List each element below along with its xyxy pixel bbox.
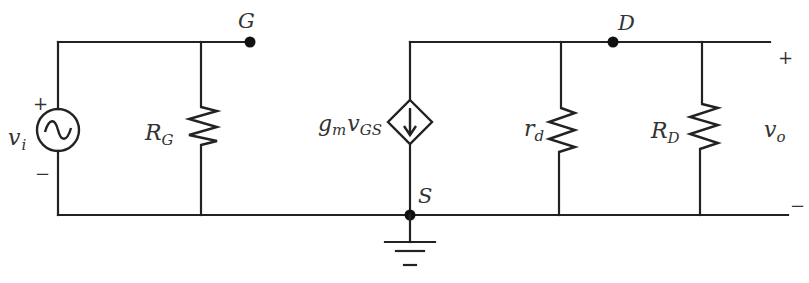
input-voltage-symbol: v xyxy=(8,125,21,150)
vgs-symbol: v xyxy=(347,111,360,136)
gm-subscript: m xyxy=(332,121,346,139)
rg-subscript: G xyxy=(162,131,174,149)
output-minus-sign: − xyxy=(790,195,805,216)
resistor-zigzag-icon xyxy=(549,108,575,152)
drain-resistance xyxy=(549,42,575,215)
gate-label: G xyxy=(238,9,255,33)
resistor-zigzag-icon xyxy=(189,107,217,145)
input-voltage-label: vi xyxy=(8,125,26,154)
output-voltage-label: vo xyxy=(764,117,785,146)
dependent-source-label: gmvGS xyxy=(318,111,382,139)
vgs-subscript: GS xyxy=(360,121,382,139)
drain-label: D xyxy=(617,11,635,35)
rD-subscript: D xyxy=(667,129,680,147)
output-voltage-symbol: v xyxy=(764,117,777,142)
source-label: S xyxy=(418,184,432,208)
input-minus-sign: − xyxy=(35,163,50,184)
rD-symbol: R xyxy=(650,118,668,143)
drain-node-dot xyxy=(608,37,619,48)
rg-symbol: R xyxy=(144,120,162,145)
output-plus-sign: + xyxy=(778,47,793,68)
dependent-current-source xyxy=(388,42,770,221)
gate-node-dot xyxy=(245,37,256,48)
gate-resistor xyxy=(189,42,217,215)
ground-icon xyxy=(385,215,435,265)
circuit-diagram: G D S + − vi RG gmvGS rd RD + − vo xyxy=(0,0,809,283)
drain-resistor xyxy=(690,42,718,215)
resistor-zigzag-icon xyxy=(690,104,718,149)
rd-subscript: d xyxy=(535,127,545,145)
sine-wave-icon xyxy=(45,121,71,139)
gate-resistor-label: RG xyxy=(144,120,174,149)
ac-voltage-source xyxy=(37,109,79,151)
gm-symbol: g xyxy=(318,111,332,136)
drain-resistance-label: rd xyxy=(524,116,544,145)
drain-resistor-label: RD xyxy=(650,118,680,147)
input-voltage-subscript: i xyxy=(21,136,26,154)
output-voltage-subscript: o xyxy=(776,128,785,146)
input-plus-sign: + xyxy=(33,93,48,114)
